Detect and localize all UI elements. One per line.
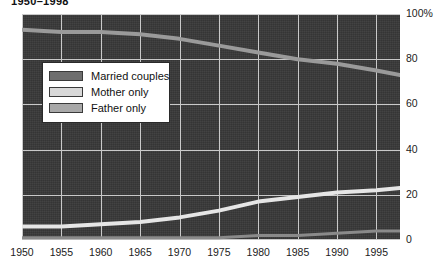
x-axis-tick-label: 1960 (89, 246, 112, 258)
y-axis-tick-label: 100% (406, 7, 433, 19)
legend-swatch-father-only (49, 103, 83, 113)
chart-legend: Married couplesMother onlyFather only (42, 62, 170, 123)
legend-label: Father only (91, 103, 146, 114)
series-line-father-only (22, 231, 400, 238)
y-axis-tick-label: 80 (406, 52, 418, 64)
legend-swatch-married-couples (49, 71, 83, 81)
x-axis-tick-label: 1965 (128, 246, 151, 258)
x-axis-tick-label: 1980 (247, 246, 270, 258)
x-axis-tick-label: 1955 (50, 246, 73, 258)
y-axis-tick-label: 60 (406, 97, 418, 109)
x-axis-tick-label: 1975 (207, 246, 230, 258)
legend-item-mother-only: Mother only (49, 84, 163, 100)
series-line-mother-only (22, 188, 400, 226)
x-axis-tick-label: 1970 (168, 246, 191, 258)
chart-plot-area (22, 14, 400, 240)
x-axis-tick-label: 1950 (10, 246, 33, 258)
legend-swatch-mother-only (49, 87, 83, 97)
legend-item-father-only: Father only (49, 100, 163, 116)
legend-label: Married couples (91, 71, 169, 82)
x-axis-tick-label: 1995 (365, 246, 388, 258)
x-axis-tick-label: 1990 (325, 246, 348, 258)
y-axis-tick-label: 20 (406, 188, 418, 200)
legend-item-married-couples: Married couples (49, 68, 163, 84)
page-title: 1950–1998 (11, 0, 69, 7)
x-axis-tick-label: 1985 (286, 246, 309, 258)
y-axis-tick-label: 0 (406, 233, 412, 245)
legend-label: Mother only (91, 87, 148, 98)
series-lines (22, 14, 400, 240)
y-axis-tick-label: 40 (406, 143, 418, 155)
